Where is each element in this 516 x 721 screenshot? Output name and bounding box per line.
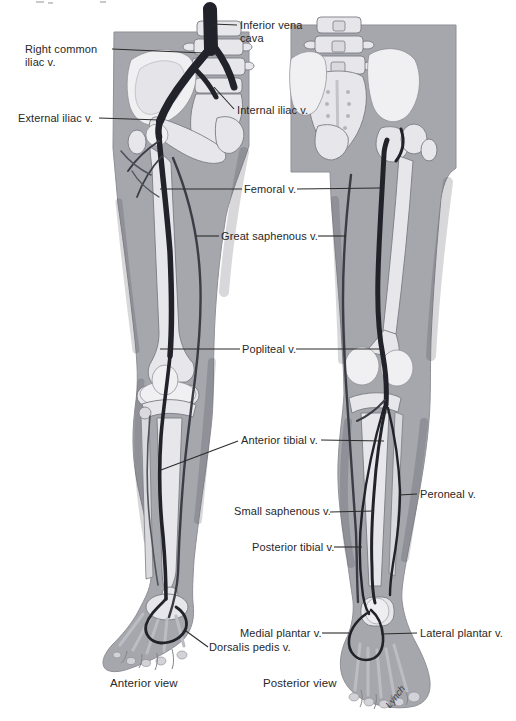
label-great-saphenous: Great saphenous v. — [221, 230, 318, 243]
cropped-page-text-fragment — [36, 2, 106, 3]
label-popliteal: Popliteal v. — [242, 343, 296, 356]
label-femoral: Femoral v. — [244, 183, 296, 196]
anterior-figure — [103, 9, 254, 672]
label-anterior-tibial: Anterior tibial v. — [241, 434, 318, 447]
label-internal-iliac: Internal iliac v. — [237, 104, 308, 117]
label-right-common-iliac: Right common iliac v. — [25, 43, 117, 69]
anatomy-figure-page: Inferior vena cava Right common iliac v.… — [0, 0, 516, 721]
label-lateral-plantar: Lateral plantar v. — [420, 627, 503, 640]
label-medial-plantar: Medial plantar v. — [240, 627, 322, 640]
label-small-saphenous: Small saphenous v. — [234, 505, 331, 518]
posterior-figure — [290, 17, 456, 709]
label-external-iliac: External iliac v. — [18, 112, 93, 125]
label-dorsalis-pedis: Dorsalis pedis v. — [209, 641, 291, 654]
label-peroneal: Peroneal v. — [420, 488, 476, 501]
caption-posterior-view: Posterior view — [263, 677, 337, 691]
caption-anterior-view: Anterior view — [110, 677, 178, 691]
label-posterior-tibial: Posterior tibial v. — [252, 541, 334, 554]
label-inferior-vena-cava: Inferior vena cava — [240, 19, 310, 45]
leader-dorsalis-pedis — [186, 631, 208, 647]
